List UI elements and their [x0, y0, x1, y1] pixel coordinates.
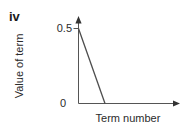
y-tick-label-bottom: 0 [38, 97, 66, 109]
x-axis-arrowhead [173, 100, 180, 106]
chart-figure: Value of term Term number 0.5 0 [0, 0, 186, 131]
y-tick-label-top: 0.5 [38, 22, 72, 34]
y-axis-label: Value of term [13, 26, 25, 106]
y-axis-arrowhead [75, 16, 81, 24]
x-axis-label: Term number [78, 112, 178, 125]
chart-screenshot: iv Value of term Term number 0.5 0 [0, 0, 186, 131]
data-line-series-0 [79, 29, 106, 104]
